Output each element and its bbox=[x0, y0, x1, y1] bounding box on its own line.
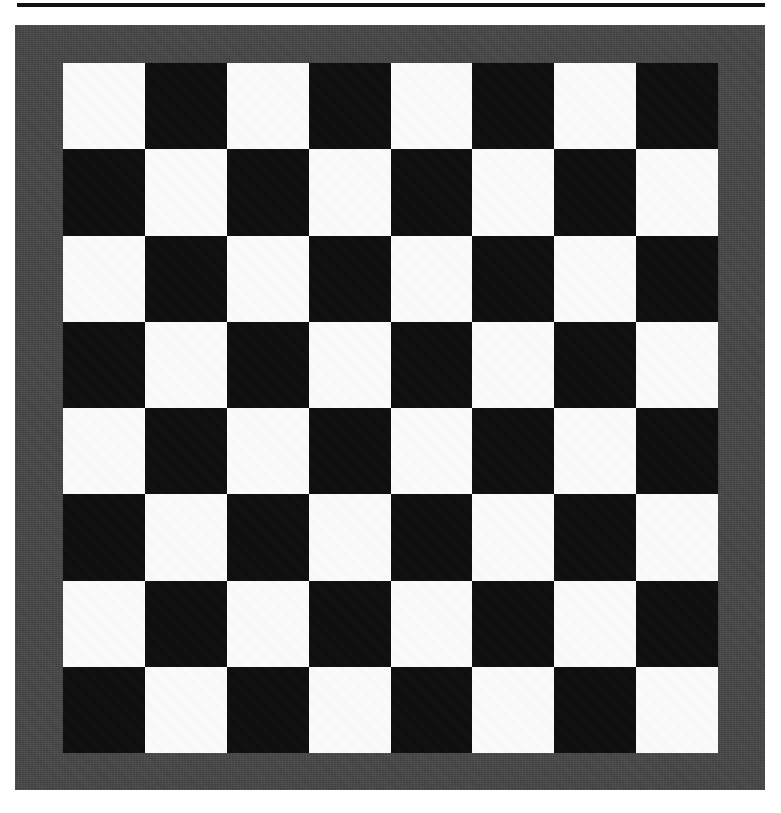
checkerboard-square bbox=[391, 236, 473, 322]
checkerboard-square bbox=[391, 408, 473, 494]
checkerboard-square bbox=[145, 63, 227, 149]
checkerboard-square bbox=[309, 408, 391, 494]
checkerboard-square bbox=[636, 236, 718, 322]
checkerboard-square bbox=[554, 322, 636, 408]
checkerboard-square bbox=[391, 322, 473, 408]
checkerboard-square bbox=[63, 322, 145, 408]
checkerboard-square bbox=[63, 236, 145, 322]
checkerboard-square bbox=[554, 63, 636, 149]
checkerboard-square bbox=[63, 408, 145, 494]
top-horizontal-rule bbox=[17, 3, 765, 7]
checkerboard-square bbox=[63, 149, 145, 235]
page-canvas bbox=[0, 0, 781, 813]
checkerboard-square bbox=[309, 236, 391, 322]
checkerboard-square bbox=[63, 581, 145, 667]
checkerboard-square bbox=[636, 581, 718, 667]
checkerboard-square bbox=[145, 494, 227, 580]
checkerboard-square bbox=[227, 236, 309, 322]
checkerboard-grid bbox=[63, 63, 718, 753]
checkerboard-square bbox=[391, 494, 473, 580]
checkerboard-square bbox=[391, 581, 473, 667]
checkerboard-square bbox=[227, 322, 309, 408]
checkerboard-square bbox=[227, 149, 309, 235]
checkerboard-square bbox=[227, 63, 309, 149]
checkerboard-square bbox=[554, 149, 636, 235]
checkerboard-square bbox=[63, 667, 145, 753]
checkerboard-square bbox=[309, 322, 391, 408]
checkerboard-square bbox=[472, 408, 554, 494]
checkerboard-square bbox=[145, 149, 227, 235]
checkerboard-square bbox=[472, 494, 554, 580]
checkerboard-square bbox=[391, 63, 473, 149]
checkerboard-square bbox=[227, 667, 309, 753]
checkerboard-square bbox=[145, 322, 227, 408]
checkerboard-square bbox=[309, 149, 391, 235]
checkerboard-square bbox=[309, 581, 391, 667]
checkerboard-square bbox=[145, 236, 227, 322]
checkerboard-square bbox=[636, 149, 718, 235]
checkerboard-square bbox=[145, 408, 227, 494]
checkerboard-square bbox=[554, 236, 636, 322]
checkerboard-square bbox=[554, 494, 636, 580]
checkerboard-square bbox=[309, 494, 391, 580]
checkerboard-square bbox=[636, 667, 718, 753]
checkerboard-square bbox=[636, 408, 718, 494]
checkerboard-square bbox=[145, 667, 227, 753]
checkerboard-square bbox=[554, 408, 636, 494]
checkerboard-square bbox=[472, 149, 554, 235]
checkerboard-square bbox=[227, 494, 309, 580]
checkerboard-square bbox=[472, 236, 554, 322]
checkerboard-square bbox=[145, 581, 227, 667]
checkerboard-square bbox=[636, 63, 718, 149]
checkerboard-frame bbox=[15, 25, 765, 790]
checkerboard-square bbox=[309, 667, 391, 753]
checkerboard-square bbox=[63, 63, 145, 149]
checkerboard-square bbox=[472, 581, 554, 667]
checkerboard-square bbox=[227, 581, 309, 667]
checkerboard-square bbox=[391, 149, 473, 235]
checkerboard-square bbox=[472, 667, 554, 753]
checkerboard-square bbox=[63, 494, 145, 580]
checkerboard-square bbox=[554, 667, 636, 753]
checkerboard-square bbox=[554, 581, 636, 667]
checkerboard-square bbox=[309, 63, 391, 149]
checkerboard-square bbox=[391, 667, 473, 753]
checkerboard-square bbox=[636, 494, 718, 580]
checkerboard-square bbox=[472, 322, 554, 408]
checkerboard-square bbox=[636, 322, 718, 408]
checkerboard-square bbox=[227, 408, 309, 494]
checkerboard-square bbox=[472, 63, 554, 149]
